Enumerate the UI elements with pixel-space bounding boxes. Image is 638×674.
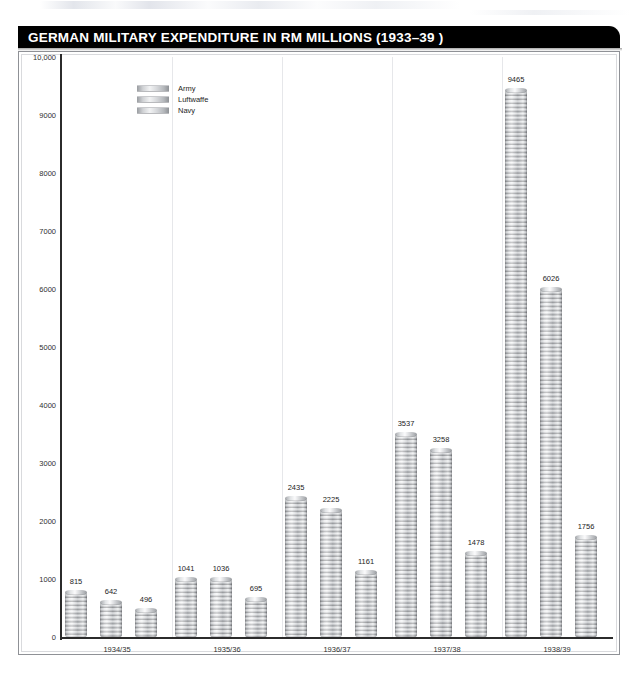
bar-coin-stack xyxy=(355,573,377,637)
x-tick-1936-37: 1936/37 xyxy=(323,645,350,654)
y-tick-2000: 2000 xyxy=(39,517,56,526)
bar-coin-top xyxy=(285,496,307,501)
bar-value-label: 1756 xyxy=(578,522,595,531)
bar-value-label: 642 xyxy=(105,587,118,596)
y-tick-1000: 1000 xyxy=(39,575,56,584)
y-tick-6000: 6000 xyxy=(39,285,56,294)
bar-value-label: 1036 xyxy=(213,564,230,573)
bar-coin-stack xyxy=(135,611,157,637)
bar-coin-stack xyxy=(575,538,597,637)
bar-coin-top xyxy=(175,577,197,582)
x-axis-line xyxy=(60,637,613,639)
bar-luftwaffe-1935-36: 1036 xyxy=(210,577,232,637)
legend-label-navy: Navy xyxy=(178,106,195,115)
legend-label-army: Army xyxy=(178,84,196,93)
bar-coin-top xyxy=(505,88,527,93)
bar-value-label: 2435 xyxy=(288,483,305,492)
bar-value-label: 2225 xyxy=(323,495,340,504)
bar-coin-stack xyxy=(65,593,87,637)
bar-value-label: 3537 xyxy=(398,419,415,428)
bar-navy-1937-38: 1478 xyxy=(465,551,487,637)
group-separator-gridline xyxy=(282,57,283,637)
bar-coin-stack xyxy=(100,603,122,637)
bar-coin-top xyxy=(65,590,87,595)
y-tick-9000: 9000 xyxy=(39,111,56,120)
bar-coin-stack xyxy=(430,451,452,637)
legend-label-luftwaffe: Luftwaffe xyxy=(178,95,208,104)
bar-coin-top xyxy=(320,508,342,513)
bar-coin-stack xyxy=(395,435,417,637)
bar-navy-1934-35: 496 xyxy=(135,608,157,637)
scan-artifact-top-right xyxy=(470,10,630,15)
bar-coin-top xyxy=(575,535,597,540)
group-separator-gridline xyxy=(172,57,173,637)
bar-coin-stack xyxy=(465,554,487,637)
bar-luftwaffe-1937-38: 3258 xyxy=(430,448,452,637)
page-title: GERMAN MILITARY EXPENDITURE IN RM MILLIO… xyxy=(28,30,443,45)
bar-coin-top xyxy=(135,608,157,613)
x-tick-1937-38: 1937/38 xyxy=(433,645,460,654)
bar-value-label: 496 xyxy=(140,595,153,604)
bar-coin-top xyxy=(355,570,377,575)
bar-coin-stack xyxy=(210,580,232,637)
bar-value-label: 1478 xyxy=(468,538,485,547)
y-tick-10000: 10,000 xyxy=(33,53,56,62)
bar-army-1935-36: 1041 xyxy=(175,577,197,637)
x-tick-1934-35: 1934/35 xyxy=(103,645,130,654)
y-tick-0: 0 xyxy=(52,633,56,642)
group-separator-gridline xyxy=(392,57,393,637)
bar-coin-stack xyxy=(320,511,342,637)
bar-value-label: 6026 xyxy=(543,274,560,283)
bar-navy-1936-37: 1161 xyxy=(355,570,377,637)
bar-army-1936-37: 2435 xyxy=(285,496,307,637)
y-tick-4000: 4000 xyxy=(39,401,56,410)
x-tick-1935-36: 1935/36 xyxy=(213,645,240,654)
bar-coin-top xyxy=(245,597,267,602)
y-tick-3000: 3000 xyxy=(39,459,56,468)
bar-luftwaffe-1936-37: 2225 xyxy=(320,508,342,637)
y-tick-8000: 8000 xyxy=(39,169,56,178)
bar-value-label: 9465 xyxy=(508,75,525,84)
bar-navy-1935-36: 695 xyxy=(245,597,267,637)
bar-value-label: 1161 xyxy=(358,557,374,566)
bar-army-1934-35: 815 xyxy=(65,590,87,637)
bar-luftwaffe-1934-35: 642 xyxy=(100,600,122,637)
bar-coin-stack xyxy=(175,580,197,637)
bar-coin-top xyxy=(540,287,562,292)
chart-title-bar: GERMAN MILITARY EXPENDITURE IN RM MILLIO… xyxy=(18,26,620,48)
scan-artifact-top xyxy=(40,1,460,9)
bar-coin-top xyxy=(210,577,232,582)
bar-coin-stack xyxy=(245,600,267,637)
bar-value-label: 695 xyxy=(250,584,263,593)
bar-value-label: 815 xyxy=(70,577,83,586)
chart-page: GERMAN MILITARY EXPENDITURE IN RM MILLIO… xyxy=(0,0,638,674)
bar-coin-stack xyxy=(505,91,527,637)
bar-coin-top xyxy=(100,600,122,605)
bar-coin-stack xyxy=(540,290,562,637)
bar-value-label: 3258 xyxy=(433,435,450,444)
bar-coin-stack xyxy=(285,499,307,637)
legend-swatch-army xyxy=(137,85,169,92)
bar-coin-top xyxy=(430,448,452,453)
bar-army-1938-39: 9465 xyxy=(505,88,527,637)
x-tick-1938-39: 1938/39 xyxy=(543,645,570,654)
bar-coin-top xyxy=(395,432,417,437)
legend-swatch-luftwaffe xyxy=(137,96,169,103)
y-tick-5000: 5000 xyxy=(39,343,56,352)
bar-value-label: 1041 xyxy=(178,564,195,573)
legend-swatch-navy xyxy=(137,107,169,114)
bar-coin-top xyxy=(465,551,487,556)
group-separator-gridline xyxy=(502,57,503,637)
y-tick-7000: 7000 xyxy=(39,227,56,236)
bar-army-1937-38: 3537 xyxy=(395,432,417,637)
y-axis-tick-labels: 10,0009000800070006000500040003000200010… xyxy=(0,0,56,674)
bar-navy-1938-39: 1756 xyxy=(575,535,597,637)
bar-luftwaffe-1938-39: 6026 xyxy=(540,287,562,637)
